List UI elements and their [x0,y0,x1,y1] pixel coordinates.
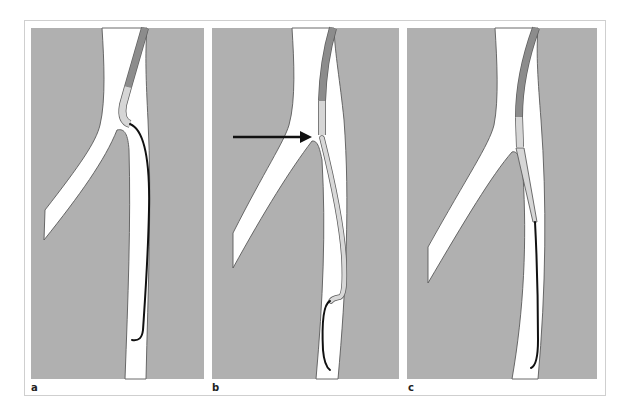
panel-a-label: a [31,382,38,393]
panel-a [31,28,204,379]
figure-three-panel-diagram: a b c [0,0,630,406]
panel-c-label: c [408,382,414,393]
panel-c [407,28,597,379]
panel-b-label: b [212,382,219,393]
panel-b [212,28,399,379]
panel-c-catheter-tip-fill [519,117,520,147]
